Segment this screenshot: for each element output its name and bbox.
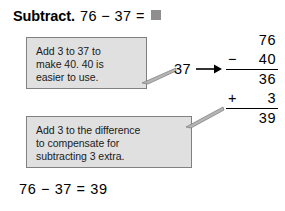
- callout-regroup-pointer-icon: [142, 66, 178, 86]
- calc-number: 76: [259, 31, 278, 50]
- right-arrow-icon: [196, 63, 222, 75]
- callout-regroup-line-3: easier to use.: [36, 71, 146, 84]
- calc-row: + 3: [226, 89, 278, 109]
- callout-compensate-line-2: to compensate for: [36, 137, 191, 150]
- gray-square-answer-box-icon: [151, 10, 161, 20]
- final-equation: 76 − 37 = 39: [19, 181, 108, 197]
- vertical-computation: 76 − 40 36 + 3 39: [226, 31, 278, 128]
- calc-row: 36: [226, 70, 278, 89]
- title-instruction: Subtract.: [13, 8, 75, 24]
- calc-number: 36: [259, 70, 278, 89]
- calc-row: 76: [226, 31, 278, 50]
- calc-operator: +: [228, 89, 237, 108]
- page-title: Subtract. 76 − 37 =: [13, 8, 161, 24]
- title-expression: 76 − 37 =: [80, 8, 145, 24]
- calc-row: 39: [226, 109, 278, 128]
- calc-operator: −: [228, 50, 237, 69]
- callout-compensate-line-3: subtracting 3 extra.: [36, 150, 191, 163]
- transform-addend-value: 37: [174, 61, 191, 77]
- calc-number: 39: [259, 109, 278, 128]
- callout-compensate-line-1: Add 3 to the difference: [36, 124, 191, 137]
- callout-regroup-line-1: Add 3 to 37 to: [36, 45, 146, 58]
- callout-regroup-line-2: make 40. 40 is: [36, 58, 146, 71]
- calc-row: − 40: [226, 50, 278, 70]
- transform-annotation: 37: [174, 61, 222, 77]
- callout-compensate-pointer-icon: [186, 107, 226, 129]
- calc-number: 3: [267, 89, 278, 108]
- calc-number: 40: [259, 50, 278, 69]
- callout-compensate-hint: Add 3 to the difference to compensate fo…: [26, 116, 192, 168]
- callout-regroup-hint: Add 3 to 37 to make 40. 40 is easier to …: [26, 37, 147, 89]
